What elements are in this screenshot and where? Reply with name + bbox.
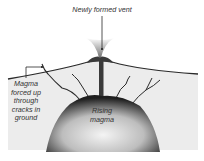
label-line: ground [4,114,48,123]
label-newly-formed-vent: Newly formed vent [0,6,204,15]
label-line: magma [82,116,122,125]
eruption-plume [86,38,114,58]
label-rising-magma: Rising magma [82,107,122,124]
label-magma-cracks: Magma forced up through cracks in ground [4,80,48,123]
vent-conduit [99,58,104,100]
